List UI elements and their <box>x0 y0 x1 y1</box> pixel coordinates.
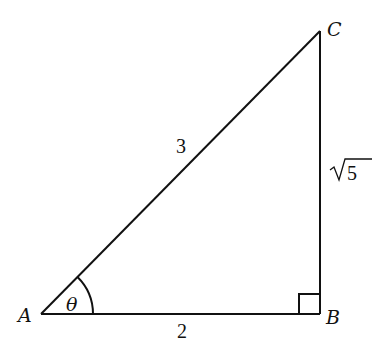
vertex-label-b: B <box>325 306 340 328</box>
triangle-diagram: A B C θ 3 2 5 <box>0 0 391 353</box>
side-label-bc: 5 <box>330 159 372 184</box>
right-angle-marker <box>299 294 320 314</box>
side-label-ac: 3 <box>176 135 186 157</box>
angle-label-theta: θ <box>66 293 78 315</box>
vertex-label-a: A <box>16 304 32 326</box>
side-label-ab: 2 <box>177 320 187 342</box>
side-ac <box>41 31 320 314</box>
angle-theta-arc <box>78 277 94 314</box>
vertex-label-c: C <box>327 18 342 40</box>
sqrt-radicand: 5 <box>347 162 357 184</box>
